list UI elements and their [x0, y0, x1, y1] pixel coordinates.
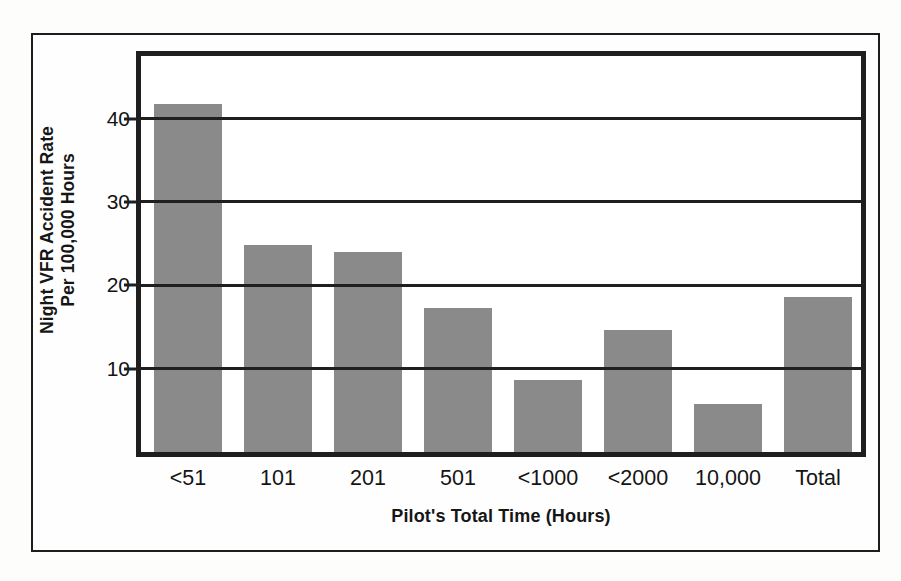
x-axis-tick-label: 501: [413, 466, 503, 491]
bar: [694, 404, 762, 452]
y-axis-title-line-1: Night VFR Accident Rate: [37, 126, 58, 334]
gridline: [141, 117, 861, 120]
plot-frame: [136, 51, 866, 457]
bar: [154, 104, 222, 452]
x-axis-title: Pilot's Total Time (Hours): [136, 506, 866, 527]
x-axis-tick-labels: <51101201501<1000<200010,000Total: [141, 466, 861, 500]
x-axis-tick-label: 10,000: [683, 466, 773, 491]
x-axis-tick-label: <51: [143, 466, 233, 491]
x-axis-tick-label: <1000: [503, 466, 593, 491]
y-axis-tick-labels: 10203040: [82, 0, 130, 581]
plot-area: [141, 56, 861, 452]
gridline: [141, 284, 861, 287]
bar: [604, 330, 672, 452]
bar: [334, 252, 402, 452]
x-axis-tick-label: 201: [323, 466, 413, 491]
y-axis-title-line-2: Per 100,000 Hours: [58, 153, 79, 306]
bar: [244, 245, 312, 452]
y-axis-tick-mark: [124, 117, 136, 120]
gridline: [141, 200, 861, 203]
y-axis-title: Night VFR Accident Rate Per 100,000 Hour…: [30, 30, 86, 430]
y-axis-tick-mark: [124, 200, 136, 203]
y-axis-tick-mark: [124, 284, 136, 287]
bar: [514, 380, 582, 452]
y-axis-tick-mark: [124, 367, 136, 370]
x-axis-tick-label: <2000: [593, 466, 683, 491]
x-axis-tick-label: Total: [773, 466, 863, 491]
bar: [784, 297, 852, 452]
x-axis-tick-label: 101: [233, 466, 323, 491]
gridline: [141, 367, 861, 370]
bar: [424, 308, 492, 452]
